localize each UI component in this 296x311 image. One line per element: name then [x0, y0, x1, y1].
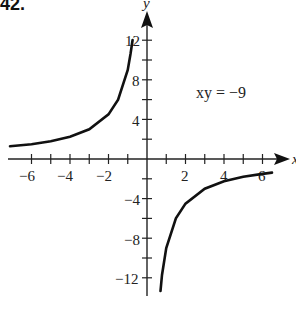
- svg-text:−4: −4: [57, 168, 73, 184]
- svg-text:−6: −6: [19, 168, 35, 184]
- svg-text:4: 4: [132, 113, 140, 129]
- svg-text:−12: −12: [115, 271, 138, 287]
- hyperbola-graph: y x −6 −4 −2 2 4 6 12 8 4 −4 −8 −12 xy =…: [0, 0, 296, 311]
- svg-text:2: 2: [181, 168, 189, 184]
- x-axis: [8, 153, 290, 165]
- x-tick-labels: −6 −4 −2 2 4 6: [19, 168, 266, 184]
- equation-label: xy = −9: [196, 84, 246, 102]
- y-axis-label: y: [141, 0, 150, 11]
- svg-text:6: 6: [258, 168, 266, 184]
- svg-text:8: 8: [132, 73, 140, 89]
- curve-left-branch: [10, 40, 133, 146]
- svg-text:−8: −8: [124, 232, 140, 248]
- svg-text:−2: −2: [96, 168, 112, 184]
- y-axis: [141, 11, 153, 296]
- x-axis-label: x: [291, 151, 296, 167]
- curve-right-branch: [161, 173, 273, 291]
- svg-text:−4: −4: [124, 192, 140, 208]
